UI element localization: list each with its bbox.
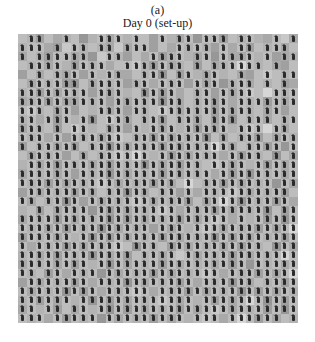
person-arrow-icon <box>213 36 216 42</box>
person-arrow-icon <box>38 207 41 213</box>
person-arrow-icon <box>152 180 155 186</box>
person-arrow-icon <box>292 90 295 96</box>
grid-cell <box>193 34 202 43</box>
grid-cell <box>289 79 298 88</box>
simulation-grid <box>18 34 298 323</box>
person-arrow-icon <box>231 144 234 150</box>
person-arrow-icon <box>292 207 295 213</box>
grid-cell <box>167 160 176 169</box>
grid-cell <box>18 242 27 251</box>
grid-cell <box>18 296 27 305</box>
person-arrow-icon <box>222 306 225 312</box>
grid-cell <box>132 115 141 124</box>
grid-cell <box>281 314 290 323</box>
grid-cell <box>281 188 290 197</box>
grid-cell <box>158 314 167 323</box>
grid-cell <box>228 305 237 314</box>
grid-cell <box>106 97 115 106</box>
grid-cell <box>114 169 123 178</box>
grid-cell <box>27 242 36 251</box>
person-arrow-icon <box>91 288 94 294</box>
person-arrow-icon <box>161 171 164 177</box>
grid-cell <box>202 278 211 287</box>
grid-cell <box>149 124 158 133</box>
grid-cell <box>219 133 228 142</box>
grid-cell <box>254 97 263 106</box>
grid-cell <box>141 160 150 169</box>
person-arrow-icon <box>56 81 59 87</box>
person-arrow-icon <box>231 252 234 258</box>
grid-cell <box>62 88 71 97</box>
person-arrow-icon <box>21 135 24 141</box>
person-arrow-icon <box>275 252 278 258</box>
grid-cell <box>228 314 237 323</box>
grid-cell <box>211 169 220 178</box>
person-arrow-icon <box>170 171 173 177</box>
grid-cell <box>71 124 80 133</box>
grid-cell <box>53 34 62 43</box>
person-arrow-icon <box>222 162 225 168</box>
person-arrow-icon <box>143 45 146 51</box>
person-arrow-icon <box>143 207 146 213</box>
person-arrow-icon <box>292 270 295 276</box>
grid-cell <box>62 296 71 305</box>
grid-cell <box>149 133 158 142</box>
grid-cell <box>158 278 167 287</box>
grid-cell <box>211 106 220 115</box>
grid-cell <box>281 160 290 169</box>
person-arrow-icon <box>73 252 76 258</box>
grid-cell <box>44 79 53 88</box>
person-arrow-icon <box>117 234 120 240</box>
person-arrow-icon <box>161 252 164 258</box>
grid-cell <box>184 179 193 188</box>
person-arrow-icon <box>240 306 243 312</box>
grid-cell <box>53 97 62 106</box>
grid-cell <box>114 224 123 233</box>
person-arrow-icon <box>196 261 199 267</box>
person-arrow-icon <box>135 288 138 294</box>
grid-cell <box>263 79 272 88</box>
grid-cell <box>97 160 106 169</box>
grid-cell <box>167 251 176 260</box>
grid-cell <box>202 43 211 52</box>
person-arrow-icon <box>283 216 286 222</box>
grid-cell <box>184 260 193 269</box>
grid-cell <box>44 43 53 52</box>
person-arrow-icon <box>47 270 50 276</box>
grid-cell <box>289 287 298 296</box>
person-arrow-icon <box>135 216 138 222</box>
person-arrow-icon <box>108 189 111 195</box>
person-arrow-icon <box>275 189 278 195</box>
grid-cell <box>71 133 80 142</box>
grid-cell <box>193 70 202 79</box>
person-arrow-icon <box>170 63 173 69</box>
grid-cell <box>132 224 141 233</box>
person-arrow-icon <box>178 108 181 114</box>
grid-cell <box>79 224 88 233</box>
grid-cell <box>272 278 281 287</box>
grid-cell <box>132 160 141 169</box>
person-arrow-icon <box>47 306 50 312</box>
grid-cell <box>237 70 246 79</box>
person-arrow-icon <box>135 270 138 276</box>
person-arrow-icon <box>196 135 199 141</box>
grid-cell <box>263 106 272 115</box>
person-arrow-icon <box>187 72 190 78</box>
person-arrow-icon <box>231 225 234 231</box>
grid-cell <box>289 88 298 97</box>
grid-cell <box>44 278 53 287</box>
grid-cell <box>53 287 62 296</box>
grid-cell <box>237 151 246 160</box>
grid-cell <box>254 269 263 278</box>
person-arrow-icon <box>275 63 278 69</box>
grid-cell <box>71 242 80 251</box>
person-arrow-icon <box>108 234 111 240</box>
person-arrow-icon <box>213 153 216 159</box>
grid-cell <box>53 52 62 61</box>
grid-cell <box>132 52 141 61</box>
person-arrow-icon <box>47 81 50 87</box>
grid-cell <box>132 305 141 314</box>
person-arrow-icon <box>56 135 59 141</box>
grid-cell <box>27 52 36 61</box>
person-arrow-icon <box>152 90 155 96</box>
